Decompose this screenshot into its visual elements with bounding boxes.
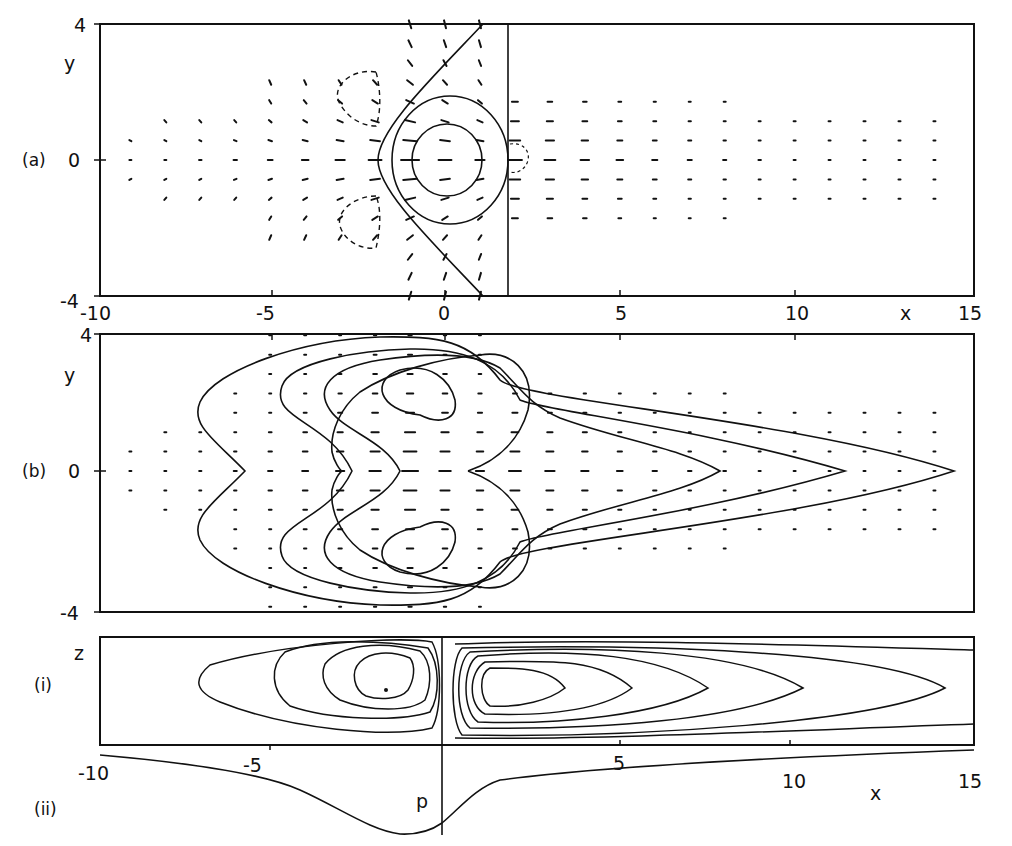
vector-arrow (303, 198, 307, 200)
panel-i-ylabel: z (74, 642, 84, 664)
vector-arrow (199, 198, 201, 200)
vector-arrow (269, 198, 272, 200)
vector-arrow (478, 100, 482, 103)
panel-i-streamlines-left (199, 640, 440, 732)
panel-a-ytick-bottom: -4 (60, 290, 79, 312)
vector-arrow (303, 120, 307, 122)
panel-ii: -10 -5 5 10 15 x p (ii) (34, 750, 982, 834)
panel-i-centre-dot (384, 688, 388, 692)
panel-a-xtick: 15 (958, 302, 982, 324)
vector-arrow (403, 179, 417, 180)
vector-arrow (268, 179, 272, 180)
vector-arrow (269, 80, 271, 85)
panel-a-ytick-zero: 0 (68, 149, 80, 171)
vector-arrow (408, 273, 411, 280)
vector-arrow (405, 198, 415, 200)
panel-a: 4 y (a) 0 -4 -10 -5 0 5 10 x 15 (22, 14, 982, 324)
vector-arrow (444, 273, 446, 280)
vector-arrow (164, 120, 166, 122)
vector-arrow (441, 120, 448, 122)
vector-arrow (403, 140, 417, 141)
panel-ii-xlabel: x (870, 782, 881, 804)
vector-arrow (443, 80, 447, 85)
panel-b-contours (198, 337, 954, 605)
vector-arrow (303, 140, 308, 141)
panel-ii-xtick: -10 (78, 762, 109, 784)
panel-ii-pressure-curve (100, 750, 974, 834)
vector-arrow (442, 216, 447, 219)
vector-arrow (199, 140, 201, 141)
vector-arrow (129, 140, 131, 141)
panel-a-xtick: -5 (256, 302, 275, 324)
vector-arrow (440, 179, 450, 180)
panel-b-frame (100, 334, 974, 612)
panel-ii-ylabel: p (416, 790, 428, 812)
vector-arrow (478, 235, 481, 240)
vector-arrow (442, 100, 447, 103)
vector-arrow (405, 120, 415, 122)
panel-b-ytick-bottom: -4 (60, 602, 79, 624)
panel-b-ytick-zero: 0 (68, 460, 80, 482)
panel-b-label: (b) (22, 461, 46, 481)
panel-b-ylabel: y (64, 364, 75, 386)
vector-arrow (303, 179, 308, 180)
panel-ii-xtick: -5 (243, 754, 262, 776)
vector-arrow (129, 179, 131, 180)
vector-arrow (304, 216, 307, 219)
vector-arrow (407, 235, 413, 240)
panel-b-ytick-top: 4 (80, 324, 92, 346)
panel-a-vector-field (129, 20, 935, 299)
panel-a-xtick: 0 (438, 302, 450, 324)
vector-arrow (479, 273, 481, 280)
panel-a-xtick: 5 (615, 302, 627, 324)
vector-arrow (372, 100, 377, 103)
vector-arrow (269, 235, 271, 240)
vector-arrow (234, 179, 237, 180)
panel-a-xtick: -10 (80, 302, 111, 324)
vector-arrow (479, 254, 481, 260)
vector-arrow (408, 254, 412, 260)
vector-arrow (269, 216, 271, 219)
vector-arrow (478, 80, 481, 85)
vector-arrow (408, 40, 411, 47)
vector-arrow (268, 140, 272, 141)
vector-arrow (304, 80, 306, 85)
vector-arrow (409, 20, 411, 28)
panel-ii-xtick: 15 (958, 770, 982, 792)
vector-arrow (440, 140, 450, 141)
vector-arrow (372, 216, 377, 219)
vector-arrow (269, 100, 271, 103)
panel-a-frame (100, 24, 974, 296)
vector-arrow (370, 179, 380, 180)
panel-a-ytick-top: 4 (74, 14, 86, 36)
vector-arrow (304, 100, 307, 103)
panel-a-front-curve (378, 24, 483, 296)
vector-arrow (479, 60, 481, 66)
vector-arrow (373, 235, 377, 240)
panel-a-label: (a) (22, 150, 46, 170)
vector-arrow (304, 235, 306, 240)
vector-arrow (408, 60, 412, 66)
vector-arrow (479, 40, 481, 47)
vector-arrow (164, 179, 166, 180)
panel-a-dashed-contour-small (510, 144, 528, 173)
vector-arrow (337, 140, 344, 141)
panel-i-streamlines-right (453, 642, 974, 739)
vector-arrow (337, 179, 344, 180)
panel-ii-label: (ii) (34, 799, 57, 819)
panel-b-vector-field (129, 335, 935, 606)
vector-arrow (234, 120, 236, 122)
panel-i-label: (i) (34, 675, 52, 695)
vector-arrow (234, 140, 237, 141)
vector-arrow (441, 198, 448, 200)
vector-arrow (338, 198, 343, 200)
vector-arrow (444, 40, 446, 47)
vector-arrow (444, 20, 446, 28)
vector-arrow (477, 120, 482, 122)
vector-arrow (373, 80, 377, 85)
vector-arrow (234, 198, 236, 200)
vector-arrow (199, 120, 201, 122)
panel-b-ticks (94, 334, 795, 612)
vector-arrow (370, 140, 380, 141)
figure: 4 y (a) 0 -4 -10 -5 0 5 10 x 15 4 y (b) … (0, 0, 1012, 846)
